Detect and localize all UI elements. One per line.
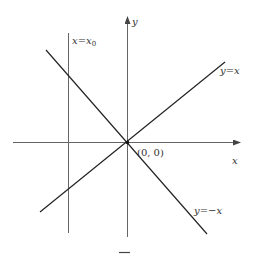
vertical-line-label: x=x0: [72, 35, 96, 48]
line-y-x: [40, 62, 225, 212]
x-axis-label: x: [232, 155, 238, 166]
vertical-line-label-main: x=x: [72, 35, 92, 46]
line-y-x-label: y=x: [219, 65, 240, 76]
diagram-canvas: y x (0, 0) x=x0 y=x y=−x: [0, 0, 254, 255]
y-axis-label: y: [131, 16, 138, 27]
line-y-neg-x-label: y=−x: [193, 205, 222, 216]
origin-label: (0, 0): [137, 147, 164, 158]
origin-point: [126, 141, 130, 145]
vertical-line-label-sub: 0: [92, 40, 96, 48]
